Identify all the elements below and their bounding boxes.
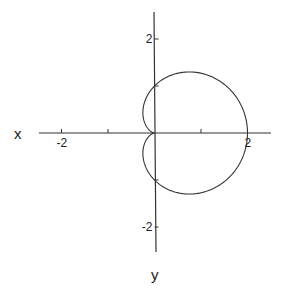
x-tick-label: -2 (57, 136, 68, 150)
y-axis (154, 12, 156, 252)
y-tick-label: 2 (146, 32, 153, 46)
y-tick-label: -2 (142, 220, 153, 234)
y-axis-label: y (151, 266, 159, 283)
x-axis-label: x (14, 125, 22, 142)
cardioid-plot: -222-2 x y (0, 0, 287, 294)
